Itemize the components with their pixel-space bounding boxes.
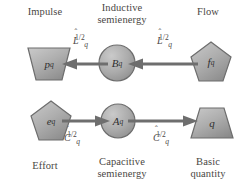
arrow-fq-to-bq (128, 57, 198, 71)
caption-flow: Flow (178, 6, 238, 18)
hat-accent-icon: ˆ (74, 29, 77, 37)
arrow-bq-to-pq (62, 57, 108, 71)
coefficient-capacitive-right: ˆC1/2q (153, 130, 169, 147)
coefficient-subscript: q (76, 137, 80, 146)
caption-inductive-semienergy: Inductive semienergy (80, 2, 164, 25)
coefficient-subscript: q (84, 40, 88, 49)
caption-capacitive-semienergy: Capacitive semienergy (80, 156, 164, 179)
hat-accent-icon: ˆ (158, 29, 161, 37)
caption-impulse: Impulse (10, 6, 80, 18)
arrow-eq-to-aq (62, 114, 110, 128)
caption-effort: Effort (10, 160, 80, 172)
coefficient-subscript: q (165, 137, 169, 146)
semienergy-diagram: Impulse Inductive semienergy Flow ˆL1/2q… (0, 0, 245, 187)
coefficient-subscript: q (168, 40, 172, 49)
coefficient-base: ˆC (153, 133, 160, 143)
coefficient-base: ˆL (157, 36, 163, 46)
coefficient-inductive-right: ˆL1/2q (157, 33, 172, 50)
caption-basic-quantity: Basic quantity (178, 156, 238, 179)
coefficient-base: ˆL (73, 36, 79, 46)
coefficient-inductive-left: ˆL1/2q (73, 33, 88, 50)
arrow-aq-to-q (128, 114, 198, 128)
